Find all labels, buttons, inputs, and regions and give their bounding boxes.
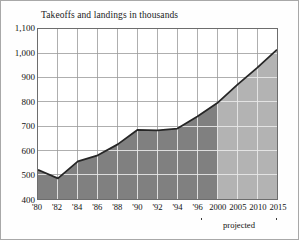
x-tick-label: '80: [32, 202, 42, 212]
x-axis-tick-labels: '80'82'84'86'88'90'92'94'962000200520102…: [1, 202, 299, 216]
x-tick-label: '90: [132, 202, 142, 212]
chart-figure: Takeoffs and landings in thousands 1,100…: [0, 0, 299, 240]
series-polyline: [38, 50, 277, 179]
y-tick-label: 900: [1, 72, 35, 82]
x-tick-label: '86: [92, 202, 102, 212]
projected-annotation-label: projected: [200, 220, 278, 230]
y-axis-tick-labels: 1,1001,000900800700600500400: [1, 28, 35, 200]
series-line: [38, 29, 277, 199]
y-tick-label: 1,100: [1, 23, 35, 33]
y-tick-label: 600: [1, 146, 35, 156]
y-tick-label: 800: [1, 97, 35, 107]
x-tick-label: 2010: [249, 202, 266, 212]
x-tick-label: '92: [152, 202, 162, 212]
y-tick-label: 1,000: [1, 48, 35, 58]
x-tick-label: '88: [112, 202, 122, 212]
x-tick-label: '94: [173, 202, 183, 212]
x-tick-label: 2000: [209, 202, 226, 212]
projected-bracket: projected: [200, 217, 278, 233]
x-tick-label: 2015: [269, 202, 286, 212]
chart-title: Takeoffs and landings in thousands: [41, 10, 178, 20]
x-tick-label: '82: [52, 202, 62, 212]
plot-area: [37, 28, 278, 200]
x-tick-label: 2005: [229, 202, 246, 212]
x-tick-label: '96: [193, 202, 203, 212]
y-tick-label: 500: [1, 170, 35, 180]
x-tick-label: '84: [72, 202, 82, 212]
y-tick-label: 700: [1, 121, 35, 131]
